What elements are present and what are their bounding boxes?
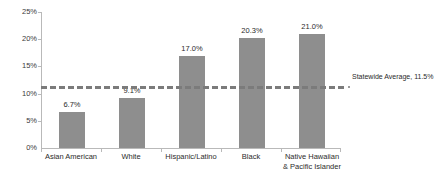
- y-tick-label-25: 25%: [22, 8, 37, 16]
- statewide-average-line2: Average,: [384, 73, 412, 80]
- statewide-average-endpoint: [348, 86, 350, 88]
- bar-black[interactable]: [239, 38, 265, 148]
- plot-area: 6.7% 9.1% 17.0% 20.3% 21.0%: [41, 12, 341, 148]
- statewide-average-line3: 11.5%: [414, 73, 433, 80]
- y-tick-label-20: 20%: [22, 35, 37, 43]
- y-tick-10: [38, 94, 41, 95]
- statewide-average-line1: Statewide: [352, 73, 383, 80]
- category-label-hispanic-latino-line1: Hispanic/Latino: [161, 152, 221, 162]
- y-tick-label-0: 0%: [26, 144, 37, 152]
- y-tick-label-10: 10%: [22, 90, 37, 98]
- bar-value-asian-american: 6.7%: [52, 100, 92, 109]
- bar-native-hawaiian[interactable]: [299, 34, 325, 148]
- x-axis-category-band: Asian American White Hispanic/Latino Bla…: [41, 148, 341, 180]
- y-tick-20: [38, 39, 41, 40]
- bar-white[interactable]: [119, 98, 145, 148]
- y-tick-label-15: 15%: [22, 62, 37, 70]
- statewide-average-line: [41, 86, 344, 89]
- category-label-native-hawaiian-line2: & Pacific Islander: [281, 162, 343, 172]
- category-label-native-hawaiian-line1: Native Hawaiian: [281, 152, 343, 162]
- bar-value-black: 20.3%: [232, 26, 272, 35]
- bar-value-hispanic-latino: 17.0%: [172, 44, 212, 53]
- y-tick-15: [38, 66, 41, 67]
- y-axis-labels: 25% 20% 15% 10% 5% 0%: [0, 0, 37, 160]
- category-label-asian-american: Asian American: [41, 152, 101, 162]
- category-label-black: Black: [221, 152, 281, 162]
- y-tick-5: [38, 121, 41, 122]
- statewide-average-annotation: Statewide Average, 11.5%: [352, 72, 402, 82]
- category-label-hispanic-latino: Hispanic/Latino: [161, 152, 221, 162]
- bar-hispanic-latino[interactable]: [179, 56, 205, 148]
- category-label-native-hawaiian: Native Hawaiian & Pacific Islander: [281, 152, 343, 172]
- category-label-white: White: [101, 152, 161, 162]
- category-label-asian-american-line1: Asian American: [41, 152, 101, 162]
- y-tick-label-5: 5%: [26, 117, 37, 125]
- category-label-white-line1: White: [101, 152, 161, 162]
- bar-value-native-hawaiian: 21.0%: [292, 22, 332, 31]
- y-tick-25: [38, 12, 41, 13]
- bar-asian-american[interactable]: [59, 112, 85, 148]
- category-label-black-line1: Black: [221, 152, 281, 162]
